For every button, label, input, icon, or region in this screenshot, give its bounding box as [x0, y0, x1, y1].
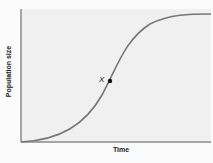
chart-svg	[0, 0, 213, 163]
point-x-label: X	[99, 75, 104, 84]
point-x-marker	[108, 79, 112, 83]
y-axis-label: Population size	[5, 42, 12, 102]
growth-curve	[21, 14, 211, 142]
x-axis-label: Time	[96, 146, 146, 153]
